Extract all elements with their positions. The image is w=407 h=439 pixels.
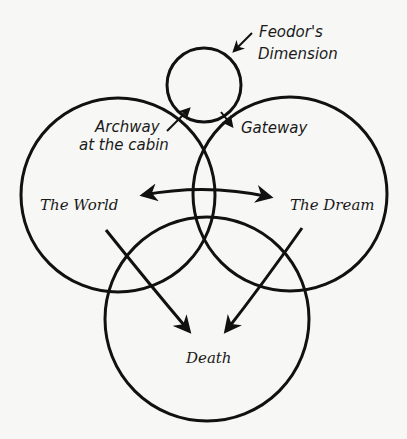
label-archway-line1: Archway xyxy=(94,118,161,136)
circle-feodors-dimension xyxy=(167,48,241,122)
label-the-world: The World xyxy=(40,196,118,214)
feodor-pointer-arrow xyxy=(234,33,252,51)
label-feodor-line2: Dimension xyxy=(258,45,338,63)
venn-diagram: Feodor's Dimension Archway at the cabin … xyxy=(0,0,407,439)
label-death: Death xyxy=(185,349,232,367)
label-archway-line2: at the cabin xyxy=(79,136,169,154)
label-the-dream: The Dream xyxy=(290,196,375,214)
label-feodor-line1: Feodor's xyxy=(259,23,323,41)
circle-death xyxy=(105,217,309,421)
world-dream-double-arrow xyxy=(143,189,270,197)
dream-to-death-arrow xyxy=(226,228,302,331)
label-gateway: Gateway xyxy=(241,119,308,137)
world-to-death-arrow xyxy=(106,230,189,331)
